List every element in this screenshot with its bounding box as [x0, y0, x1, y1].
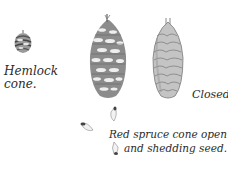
red-spruce-caption-line1: Red spruce cone open [109, 128, 227, 141]
winged-seed-icon-2 [109, 106, 118, 122]
hemlock-cone-drawing [12, 30, 34, 56]
winged-seed-icon-1 [80, 121, 94, 133]
closed-caption: Closed. [192, 88, 228, 101]
winged-seed-icon-3 [111, 141, 120, 156]
red-spruce-cone-closed-drawing [149, 18, 187, 100]
red-spruce-cone-open-drawing [86, 14, 130, 100]
cone-illustration: Hemlock cone. [0, 0, 228, 169]
red-spruce-caption-line2: and shedding seed. [124, 142, 227, 155]
hemlock-caption-line2: cone. [4, 78, 37, 91]
